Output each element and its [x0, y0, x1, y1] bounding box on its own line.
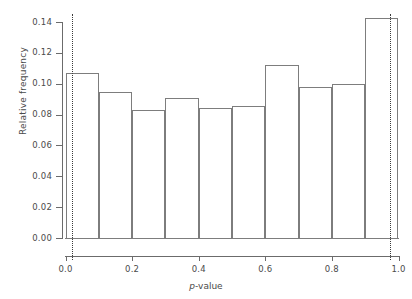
x-axis-tick: [66, 256, 67, 261]
histogram-bar: [132, 110, 165, 238]
x-axis-tick: [399, 256, 400, 261]
x-axis-tick-label: 0.0: [46, 264, 86, 274]
x-axis-tick-label: 0.4: [179, 264, 219, 274]
y-axis-tick: [56, 145, 62, 146]
x-axis-title-rest: -value: [195, 281, 223, 291]
x-axis-tick: [332, 256, 333, 261]
histogram-baseline: [65, 238, 399, 239]
x-axis-tick: [199, 256, 200, 261]
x-axis-tick-label: 0.8: [312, 264, 352, 274]
y-axis-tick-label: 0.04: [4, 172, 52, 181]
y-axis-tick-label: 0.12: [4, 48, 52, 57]
x-axis-title: p-value: [0, 281, 412, 291]
y-axis-tick-label: 0.14: [4, 18, 52, 27]
x-axis-tick: [132, 256, 133, 261]
y-axis-tick-label: 0.06: [4, 141, 52, 150]
lower-reference-line: [72, 14, 73, 260]
x-axis-tick-label: 0.2: [112, 264, 152, 274]
y-axis-title: Relative frequency: [18, 31, 28, 151]
x-axis-spine: [65, 256, 399, 257]
histogram-figure: 0.000.020.040.060.080.100.120.14 Relativ…: [0, 0, 412, 299]
y-axis-spine: [62, 22, 63, 239]
y-axis-tick-label: 0.08: [4, 110, 52, 119]
x-axis-tick-label: 1.0: [379, 264, 412, 274]
histogram-bar: [66, 73, 99, 238]
y-axis-tick: [56, 53, 62, 54]
histogram-bar: [265, 65, 298, 238]
y-axis-tick-label: 0.10: [4, 79, 52, 88]
y-axis-tick-label: 0.02: [4, 203, 52, 212]
y-axis-tick: [56, 207, 62, 208]
y-axis-tick: [56, 84, 62, 85]
y-axis-tick: [56, 22, 62, 23]
y-axis-tick-label: 0.00: [4, 234, 52, 243]
histogram-bar: [299, 87, 332, 238]
histogram-bar: [332, 84, 365, 238]
histogram-bar: [232, 106, 265, 238]
y-axis-tick: [56, 176, 62, 177]
histogram-bar: [199, 108, 232, 238]
upper-reference-line: [390, 14, 391, 260]
x-axis-tick-label: 0.6: [245, 264, 285, 274]
y-axis-tick: [56, 115, 62, 116]
histogram-bar: [99, 92, 132, 238]
y-axis-tick: [56, 238, 62, 239]
x-axis-tick: [265, 256, 266, 261]
histogram-bar: [165, 98, 198, 238]
histogram-bar: [365, 18, 398, 238]
top-clipped-text-strip: [0, 0, 412, 7]
